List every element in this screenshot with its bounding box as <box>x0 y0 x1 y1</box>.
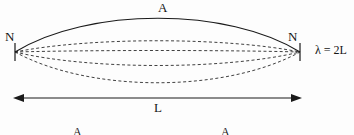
string-curve-dashed-4 <box>15 52 300 83</box>
antinode-label-bottom-right: A <box>221 126 230 135</box>
arrowhead-left-icon <box>13 94 24 102</box>
wavelength-relation-label: λ = 2L <box>315 44 347 56</box>
node-label-right: N <box>288 30 297 43</box>
standing-wave-figure: A N N λ = 2L L A A <box>0 0 354 135</box>
string-envelope-solid <box>15 18 300 52</box>
string-curve-dashed-2 <box>15 51 300 53</box>
string-curve-dashed-3 <box>15 52 300 66</box>
length-label: L <box>154 101 162 114</box>
arrowhead-right-icon <box>291 94 302 102</box>
node-label-left: N <box>5 30 14 43</box>
standing-wave-drawing <box>0 0 354 135</box>
antinode-label-bottom-left: A <box>73 126 82 135</box>
antinode-label-top: A <box>158 1 167 14</box>
